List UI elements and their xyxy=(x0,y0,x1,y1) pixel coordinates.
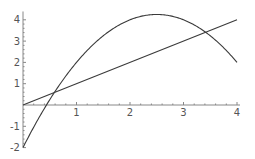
y-tick-label: 4 xyxy=(14,14,20,25)
x-tick-label: 1 xyxy=(73,107,79,118)
ticks xyxy=(23,20,237,148)
y-tick-label: 3 xyxy=(14,36,20,47)
series-parabola xyxy=(23,14,237,147)
y-tick-label: -2 xyxy=(10,142,20,153)
x-tick-label: 2 xyxy=(127,107,133,118)
series-group xyxy=(23,14,237,147)
tick-labels: 1234-2-11234 xyxy=(10,14,240,153)
y-tick-label: 2 xyxy=(14,57,20,68)
y-tick-label: 1 xyxy=(14,78,20,89)
x-tick-label: 3 xyxy=(180,107,186,118)
chart: 1234-2-11234 xyxy=(0,0,255,159)
y-tick-label: -1 xyxy=(10,121,20,132)
x-tick-label: 4 xyxy=(234,107,240,118)
series-line xyxy=(23,20,237,105)
